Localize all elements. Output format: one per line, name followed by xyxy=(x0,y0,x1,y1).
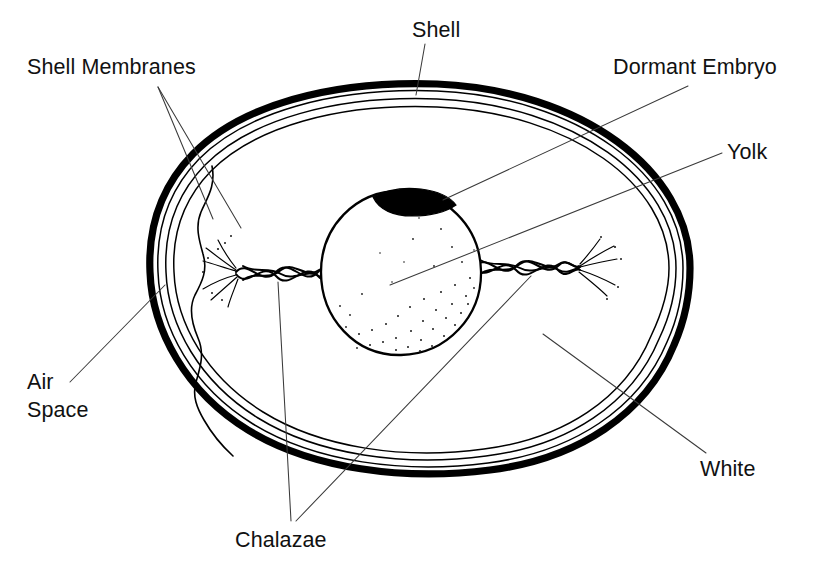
leader-chalazae-left xyxy=(278,282,291,521)
yolk-group xyxy=(321,188,481,355)
chalaza-right-speck-3 xyxy=(617,286,619,288)
chalaza-left-speck-7 xyxy=(202,271,204,273)
leader-shell-membranes-b xyxy=(158,87,241,228)
label-white: White xyxy=(700,457,755,481)
chalaza-right-wisp-5 xyxy=(580,239,600,264)
chalaza-left xyxy=(202,235,340,307)
chalaza-right-speck-4 xyxy=(606,298,608,300)
leader-air-space xyxy=(70,285,165,382)
chalaza-left-speck-1 xyxy=(217,248,219,250)
chalaza-right-speck-2 xyxy=(620,258,622,260)
chalaza-left-speck-4 xyxy=(211,292,213,294)
label-air-space-line1: Air xyxy=(27,370,54,394)
chalaza-left-speck-5 xyxy=(221,299,223,301)
chalaza-left-speck-6 xyxy=(230,235,232,237)
leader-lines-group xyxy=(70,44,722,521)
leader-shell xyxy=(416,44,425,95)
chalaza-right-speck-1 xyxy=(614,246,616,248)
label-yolk: Yolk xyxy=(727,140,767,164)
leader-white xyxy=(543,334,706,453)
chalaza-left-speck-2 xyxy=(224,242,226,244)
label-air-space-line2: Space xyxy=(27,398,88,422)
chalaza-left-wisp-4 xyxy=(211,277,237,300)
label-dormant-embryo: Dormant Embryo xyxy=(613,55,777,79)
label-shell-membranes: Shell Membranes xyxy=(27,55,196,79)
chalaza-left-speck-3 xyxy=(207,257,209,259)
chalaza-right xyxy=(474,236,622,300)
label-shell: Shell xyxy=(412,18,460,42)
chalaza-right-speck-5 xyxy=(600,236,602,238)
egg-anatomy-diagram: Shell Membranes Shell Dormant Embryo Yol… xyxy=(0,0,814,575)
chalaza-right-wisp-4 xyxy=(579,272,607,296)
egg-diagram-canvas: Shell Membranes Shell Dormant Embryo Yol… xyxy=(0,0,814,575)
label-chalazae: Chalazae xyxy=(235,528,327,552)
